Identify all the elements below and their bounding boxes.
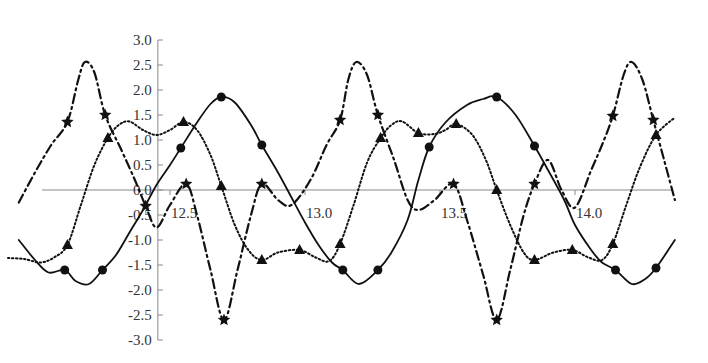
circle-marker-icon	[611, 266, 620, 275]
x-tick-label: 13.0	[306, 205, 332, 221]
y-tick-label: -3.0	[128, 332, 152, 348]
y-tick-label: 1.5	[133, 107, 152, 123]
triangle-marker-icon	[294, 244, 305, 254]
y-tick-label: -1.5	[128, 257, 152, 273]
triangle-marker-icon	[62, 239, 73, 249]
triangle-marker-icon	[413, 127, 424, 137]
circle-marker-icon	[98, 266, 107, 275]
line-chart: 3.02.52.01.51.00.50.0-0.5-1.0-1.5-2.0-2.…	[0, 0, 708, 363]
star-marker-icon	[61, 116, 73, 128]
star-marker-icon	[607, 110, 619, 122]
star-marker-icon	[528, 178, 540, 190]
x-tick-label: 12.5	[171, 205, 197, 221]
triangle-marker-icon	[178, 116, 189, 126]
circle-marker-icon	[652, 264, 661, 273]
star-marker-icon	[334, 114, 346, 126]
circle-marker-icon	[217, 93, 226, 102]
triangle-marker-icon	[491, 184, 502, 194]
series-dashdot-stars	[19, 62, 675, 326]
circle-marker-icon	[373, 266, 382, 275]
circle-marker-icon	[530, 142, 539, 151]
circle-marker-icon	[425, 143, 434, 152]
series-solid-circles	[19, 93, 675, 285]
y-tick-label: 1.0	[133, 132, 152, 148]
y-tick-label: 3.0	[133, 32, 152, 48]
star-marker-icon	[256, 178, 268, 190]
y-tick-label: -2.0	[128, 282, 152, 298]
circle-marker-icon	[338, 266, 347, 275]
y-tick-label: 2.0	[133, 82, 152, 98]
y-tick-label: 2.5	[133, 57, 152, 73]
triangle-marker-icon	[102, 132, 113, 142]
star-marker-icon	[99, 109, 111, 121]
triangle-marker-icon	[607, 238, 618, 248]
y-tick-label: -1.0	[128, 232, 152, 248]
circle-marker-icon	[492, 93, 501, 102]
star-marker-icon	[218, 314, 230, 326]
x-axis-ticks: 12.513.013.514.0	[170, 190, 602, 221]
axes: 3.02.52.01.51.00.50.0-0.5-1.0-1.5-2.0-2.…	[42, 32, 672, 348]
triangle-marker-icon	[451, 118, 462, 128]
y-tick-label: -2.5	[128, 307, 152, 323]
triangle-marker-icon	[216, 180, 227, 190]
star-marker-icon	[372, 109, 384, 121]
star-marker-icon	[447, 178, 459, 190]
x-tick-label: 13.5	[441, 205, 467, 221]
circle-marker-icon	[176, 144, 185, 153]
circle-marker-icon	[257, 141, 266, 150]
circle-marker-icon	[60, 266, 69, 275]
triangle-marker-icon	[335, 238, 346, 248]
y-tick-label: 0.5	[133, 157, 152, 173]
series-line	[19, 62, 675, 320]
x-tick-label: 14.0	[576, 205, 602, 221]
star-marker-icon	[647, 114, 659, 126]
